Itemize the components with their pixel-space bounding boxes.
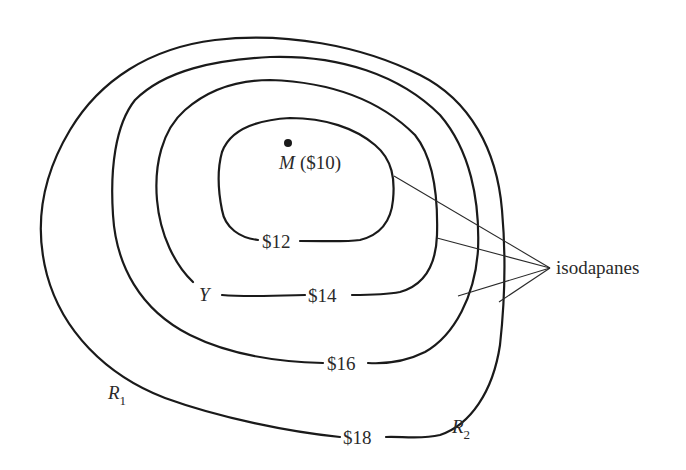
market-point-label: M xyxy=(278,152,296,173)
isodapane-14-curve xyxy=(222,295,305,296)
isodapane-16-curve xyxy=(112,57,478,363)
market-point-dot xyxy=(284,139,292,147)
isodapanes-callout-label: isodapanes xyxy=(556,257,639,278)
isodapane-12-label: $12 xyxy=(262,231,291,252)
market-point-value: ($10) xyxy=(300,152,341,174)
point-y-label: Y xyxy=(199,284,212,305)
isodapane-18-label: $18 xyxy=(343,427,372,448)
isodapane-diagram: M ($10) $12 $14 $16 $18 Y R1 R2 isodapan… xyxy=(0,0,686,470)
isodapane-14-label: $14 xyxy=(308,285,337,306)
isodapane-14-curve-left xyxy=(156,80,437,295)
isodapane-12-curve xyxy=(219,118,394,241)
point-r2-label: R2 xyxy=(451,416,470,442)
point-r1-label: R1 xyxy=(107,382,126,408)
isodapane-16-label: $16 xyxy=(327,353,356,374)
